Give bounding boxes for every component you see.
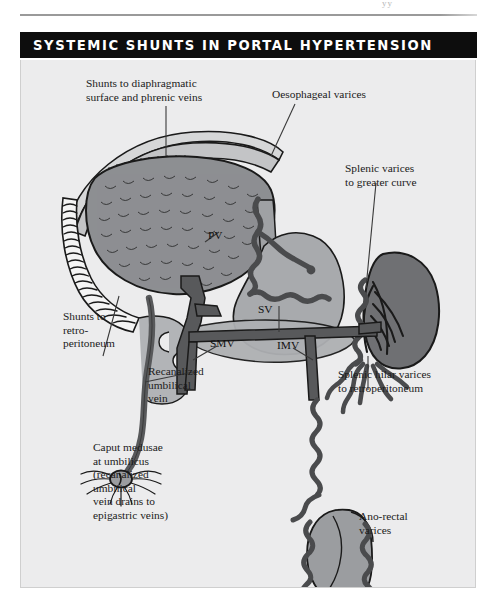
figure-page: yy SYSTEMIC SHUNTS IN PORTAL HYPERTENSIO… (0, 0, 501, 615)
page-header-remnant: yy (382, 0, 393, 8)
label-shunts-retroperitoneum: Shunts to retro- peritoneum (63, 310, 115, 351)
figure-title-bar: SYSTEMIC SHUNTS IN PORTAL HYPERTENSION (20, 32, 477, 58)
page-title: SYSTEMIC SHUNTS IN PORTAL HYPERTENSION (20, 38, 433, 53)
label-recanalized-umbilical-vein: Recanalized umbilical vein (148, 365, 204, 406)
header-rule (20, 14, 477, 16)
label-oesophageal-varices: Oesophageal varices (272, 88, 366, 102)
label-sv: SV (258, 303, 273, 315)
label-diaphragmatic-shunts: Shunts to diaphragmatic surface and phre… (86, 77, 202, 104)
label-pv: PV (208, 229, 223, 241)
label-imv: IMV (277, 339, 299, 351)
label-ano-rectal-varices: Ano-rectal varices (359, 510, 408, 537)
varix-node (307, 266, 316, 275)
figure-panel: Shunts to diaphragmatic surface and phre… (20, 60, 476, 588)
label-caput-medusae: Caput medusae at umbilicus (recanalized … (93, 441, 168, 523)
liver-organ (86, 156, 275, 294)
label-smv: SMV (210, 337, 235, 349)
label-splenic-varices-greater-curve: Splenic varices to greater curve (345, 162, 416, 189)
label-splenic-hilar-varices: Splenic hilar varices to retroperitoneum (338, 368, 431, 395)
spleen-organ (364, 252, 440, 368)
leader-oesophageal (271, 104, 295, 156)
